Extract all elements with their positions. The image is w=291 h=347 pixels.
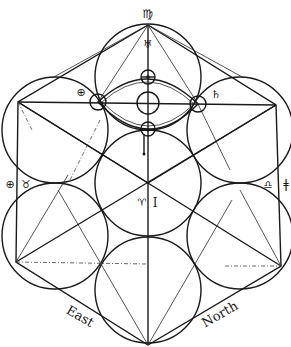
bottom-node-dot (143, 153, 146, 156)
top-ray-left (98, 25, 148, 102)
upper-horizontal-line (18, 102, 276, 105)
right-mark: ǂ (283, 177, 289, 191)
upper-right-inner-ray (198, 104, 230, 170)
lower-left-dashed (16, 262, 148, 264)
astrological-hexagon-diagram: ♍ ♅ ⊕ ♄ ⊕ ♉ ♎ ǂ ♈ I East North (0, 0, 291, 347)
circle-lower-right (187, 183, 291, 289)
center-glyph-gemini: I (153, 196, 158, 210)
right-glyph-saturn: ♄ (211, 88, 221, 101)
circle-upper-right (187, 77, 291, 183)
bottom-center-dot (146, 128, 150, 132)
top-ray-far-right (148, 25, 244, 78)
left-glyph-earth: ⊕ (76, 86, 85, 99)
lower-right-ray (240, 190, 281, 266)
top-ray-right (148, 25, 198, 104)
right-sign-libra: ♎ (264, 179, 273, 190)
top-sign-virgo: ♍ (143, 7, 154, 21)
top-ray-far-left (52, 25, 148, 78)
circle-lower-left (2, 183, 108, 289)
center-glyph-aries: ♈ (138, 197, 147, 208)
left-sign-taurus: ♉ (21, 178, 31, 191)
label-east: East (64, 302, 97, 330)
top-glyph-uranus: ♅ (143, 38, 153, 51)
left-sign-earth: ⊕ (5, 178, 14, 191)
top-node-dot (146, 75, 150, 79)
